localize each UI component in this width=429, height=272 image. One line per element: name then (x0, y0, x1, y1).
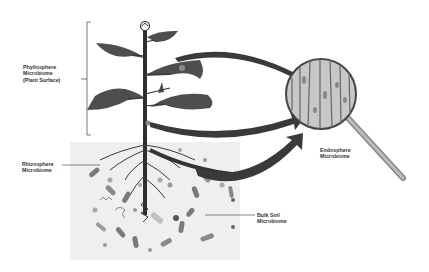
phyllosphere-label: Phyllosphere Microbiome (Plant Surface) (23, 64, 60, 83)
leaf-microbe-spot (179, 65, 185, 71)
rhizosphere-label: Rhizosphere Microbiome (22, 161, 54, 174)
leaves (87, 31, 213, 110)
arrow-stem-to-endosphere (150, 112, 305, 138)
rhizosphere-label-line2: Microbiome (22, 167, 54, 173)
magnifying-glass-icon (286, 59, 403, 178)
phyllosphere-bracket (81, 22, 91, 135)
soil-region (70, 142, 240, 260)
diagram-graphic (0, 0, 429, 272)
phyllosphere-label-line3: (Plant Surface) (23, 77, 60, 83)
endosphere-label-line2: Microbiome (320, 153, 351, 159)
flower-bud-icon (141, 22, 150, 31)
microbiome-diagram: Phyllosphere Microbiome (Plant Surface) … (0, 0, 429, 272)
bulk-soil-label: Bulk Soil Microbiome (257, 212, 287, 225)
bulk-soil-label-line2: Microbiome (257, 218, 287, 224)
endosphere-label: Endosphere Microbiome (320, 147, 351, 160)
stem-microbe-spot (146, 121, 151, 126)
